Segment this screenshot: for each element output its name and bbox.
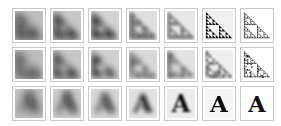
triangle-image (167, 11, 195, 40)
letter-a-image: A (243, 89, 271, 118)
triangle-image (91, 50, 119, 79)
tile-sierpinski-smooth-2 (50, 8, 84, 43)
triangle-image (205, 50, 233, 79)
triangle-image (53, 11, 81, 40)
letter-a-image: A (53, 89, 81, 118)
tile-sierpinski-smooth-4 (126, 8, 160, 43)
tile-letter-a-2: A (50, 86, 84, 121)
tile-sierpinski-noisy-5 (164, 47, 198, 82)
letter-a-image: A (205, 89, 233, 118)
triangle-image (53, 50, 81, 79)
tile-letter-a-1: A (12, 86, 46, 121)
tile-sierpinski-noisy-7 (240, 47, 274, 82)
letter-a-image: A (15, 89, 43, 118)
svg-text:A: A (132, 89, 153, 118)
tile-letter-a-7: A (240, 86, 274, 121)
tile-sierpinski-smooth-6 (202, 8, 236, 43)
triangle-image (129, 11, 157, 40)
tile-letter-a-5: A (164, 86, 198, 121)
tile-sierpinski-noisy-6 (202, 47, 236, 82)
svg-text:A: A (171, 90, 191, 118)
tile-letter-a-4: A (126, 86, 160, 121)
tile-sierpinski-smooth-1 (12, 8, 46, 43)
svg-text:A: A (94, 89, 116, 118)
triangle-image (15, 11, 43, 40)
triangle-image (129, 50, 157, 79)
image-grid: AAAAAAA (12, 8, 274, 121)
tile-sierpinski-noisy-2 (50, 47, 84, 82)
triangle-image (15, 50, 43, 79)
triangle-image (243, 50, 271, 79)
letter-a-image: A (91, 89, 119, 118)
svg-text:A: A (209, 90, 229, 117)
letter-a-image: A (167, 89, 195, 118)
tile-sierpinski-smooth-7 (240, 8, 274, 43)
triangle-image (243, 11, 271, 40)
svg-text:A: A (17, 89, 41, 118)
tile-sierpinski-smooth-5 (164, 8, 198, 43)
tile-sierpinski-noisy-4 (126, 47, 160, 82)
tile-sierpinski-smooth-3 (88, 8, 122, 43)
triangle-image (91, 11, 119, 40)
tile-sierpinski-noisy-1 (12, 47, 46, 82)
svg-text:A: A (247, 91, 266, 117)
letter-a-image: A (129, 89, 157, 118)
tile-sierpinski-noisy-3 (88, 47, 122, 82)
tile-letter-a-6: A (202, 86, 236, 121)
svg-text:A: A (55, 89, 78, 118)
triangle-image (167, 50, 195, 79)
tile-letter-a-3: A (88, 86, 122, 121)
triangle-image (205, 11, 233, 40)
